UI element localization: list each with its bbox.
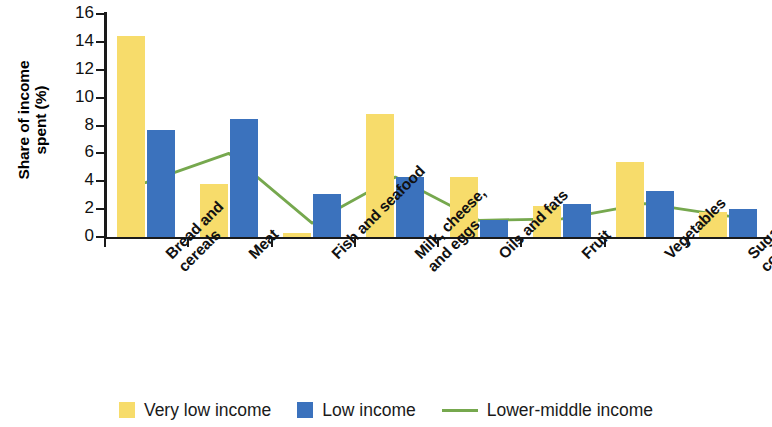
x-axis-tick-mark (187, 238, 189, 247)
y-axis-tick-mark (96, 69, 104, 71)
bar-very-low-income (616, 162, 644, 237)
bar-low-income (480, 220, 508, 237)
x-axis-tick-label: Fruit (578, 250, 591, 263)
bar-low-income (147, 130, 175, 237)
legend-label-lower-middle-income: Lower-middle income (487, 400, 653, 421)
bar-very-low-income (283, 233, 311, 237)
x-axis-tick-mark (437, 238, 439, 247)
y-axis-tick-label: 10 (66, 87, 94, 107)
x-axis-tick-mark (354, 238, 356, 247)
x-axis-tick-label: Milk, cheese,and eggs (411, 250, 437, 276)
x-axis-tick-label-line: Fish and seafood (328, 250, 341, 263)
legend-item-lower-middle-income: Lower-middle income (442, 400, 653, 421)
chart-figure: Share of income spent (%) 1614121086420 … (0, 0, 772, 427)
legend-item-low-income: Low income (297, 400, 415, 421)
blue-square-swatch-icon (297, 402, 313, 418)
y-axis-title-line2: spent (%) (32, 86, 49, 155)
x-axis-tick-label-line: Sugar and (744, 250, 757, 263)
x-axis-tick-label-line: Vegetables (661, 250, 674, 263)
y-axis-tick-mark (96, 152, 104, 154)
x-axis-tick-label: Meat (245, 250, 258, 263)
y-axis-tick-mark (96, 236, 104, 238)
x-axis-tick-mark (104, 238, 106, 247)
chart-legend: Very low income Low income Lower-middle … (0, 396, 772, 424)
x-axis-tick-label-line: Bread and (162, 250, 175, 263)
plot-area (104, 14, 770, 237)
x-axis-tick-label: Oils and fats (495, 250, 508, 263)
legend-item-very-low-income: Very low income (119, 400, 271, 421)
y-axis-tick-mark (96, 13, 104, 15)
x-axis-tick-mark (520, 238, 522, 247)
bar-low-income (729, 209, 757, 237)
x-axis-tick-label-line: and eggs (424, 263, 437, 276)
y-axis-tick-mark (96, 41, 104, 43)
x-axis-tick-label-line: confectionery (757, 263, 770, 276)
x-axis-tick-label-line: Milk, cheese, (411, 250, 424, 263)
x-axis-tick-mark (271, 238, 273, 247)
x-axis-tick-label-line: cereals (175, 263, 188, 276)
bar-low-income (646, 191, 674, 237)
bar-low-income (313, 194, 341, 237)
bar-low-income (230, 119, 258, 237)
legend-label-very-low-income: Very low income (144, 400, 271, 421)
bar-very-low-income (117, 36, 145, 237)
y-axis-tick-label: 2 (66, 198, 94, 218)
y-axis-tick-label: 8 (66, 115, 94, 135)
x-axis-tick-label: Vegetables (661, 250, 674, 263)
x-axis-tick-label: Sugar andconfectionery (744, 250, 770, 276)
y-axis-tick-label: 16 (66, 3, 94, 23)
x-axis-tick-mark (687, 238, 689, 247)
x-axis-tick-label: Fish and seafood (328, 250, 341, 263)
y-axis-tick-mark (96, 97, 104, 99)
x-axis-tick-label: Bread andcereals (162, 250, 188, 276)
y-axis-tick-label: 14 (66, 31, 94, 51)
x-axis-tick-label-line: Oils and fats (495, 250, 508, 263)
bar-low-income (563, 204, 591, 237)
y-axis-tick-mark (96, 208, 104, 210)
legend-label-low-income: Low income (322, 400, 415, 421)
y-axis-tick-label: 6 (66, 142, 94, 162)
x-axis-tick-label-line: Fruit (578, 250, 591, 263)
green-line-swatch-icon (442, 402, 478, 418)
yellow-square-swatch-icon (119, 402, 135, 418)
x-axis-tick-label-line: Meat (245, 250, 258, 263)
y-axis-tick-label: 4 (66, 170, 94, 190)
y-axis-tick-mark (96, 180, 104, 182)
y-axis-title-line1: Share of income (15, 60, 32, 179)
x-axis-tick-mark (604, 238, 606, 247)
y-axis-title: Share of income spent (%) (0, 0, 64, 240)
y-axis-tick-labels: 1614121086420 (60, 0, 94, 250)
y-axis-tick-label: 12 (66, 59, 94, 79)
y-axis-tick-mark (96, 125, 104, 127)
y-axis-tick-label: 0 (66, 226, 94, 246)
